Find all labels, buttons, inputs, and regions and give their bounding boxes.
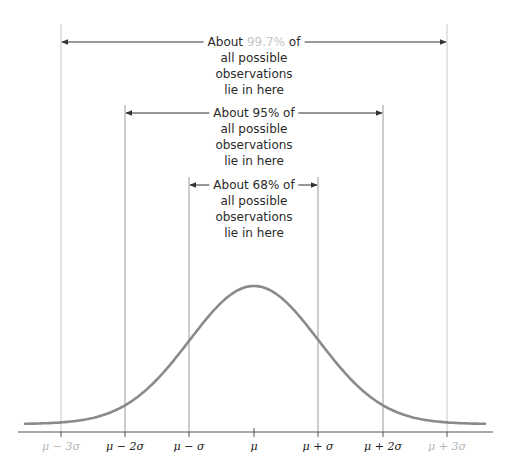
cropped-edge-fragment: [0, 28, 6, 50]
tick-label-mu: μ: [250, 440, 257, 453]
tick-label-minus-3sigma: μ − 3σ: [42, 440, 80, 453]
label-95-percent: About 95% of all possible observations l…: [209, 105, 298, 169]
tick-label-plus-1sigma: μ + σ: [303, 440, 334, 453]
tick-label-plus-2sigma: μ + 2σ: [364, 440, 402, 453]
normal-distribution-diagram: About 99.7% of all possible observations…: [0, 0, 508, 464]
tick-label-minus-2sigma: μ − 2σ: [106, 440, 144, 453]
bell-curve: [25, 286, 485, 424]
tick-label-plus-3sigma: μ + 3σ: [428, 440, 466, 453]
label-68-percent: About 68% of all possible observations l…: [209, 177, 298, 241]
faint-percent-text: 99.7%: [247, 35, 285, 49]
label-99-7-percent: About 99.7% of all possible observations…: [204, 34, 305, 98]
tick-label-minus-1sigma: μ − σ: [174, 440, 205, 453]
